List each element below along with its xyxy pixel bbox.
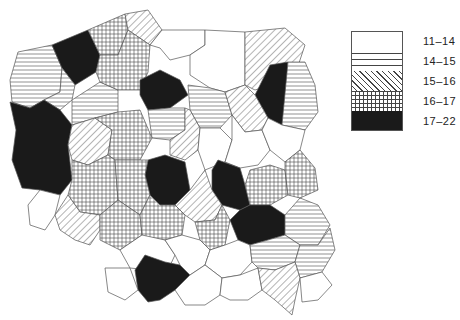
region-c1 (105, 268, 138, 300)
legend-swatch-crosshatch (351, 91, 403, 111)
region-c5 (10, 100, 72, 195)
legend-swatch-blank (351, 31, 403, 51)
region-c1 (300, 272, 332, 302)
region-c5 (140, 70, 188, 110)
legend-item-14-15: 14–15 (351, 51, 456, 71)
legend-swatch-solid (351, 111, 403, 131)
region-c3 (258, 262, 300, 315)
legend-swatch-diagonal (351, 71, 403, 91)
legend-item-11-14: 11–14 (351, 31, 456, 51)
legend: 11–14 14–15 15–16 16–17 17–22 (351, 31, 456, 131)
legend-label: 11–14 (423, 35, 455, 47)
voivodeship-regions (10, 10, 335, 315)
legend-item-17-22: 17–22 (351, 111, 456, 131)
legend-label: 17–22 (423, 115, 456, 127)
region-c4 (245, 165, 288, 205)
legend-swatch-horizontal (351, 51, 403, 71)
legend-item-16-17: 16–17 (351, 91, 456, 111)
legend-label: 14–15 (423, 55, 456, 67)
region-c2 (282, 62, 318, 130)
region-c1 (28, 190, 60, 230)
legend-label: 16–17 (423, 95, 456, 107)
legend-item-15-16: 15–16 (351, 71, 456, 91)
legend-label: 15–16 (423, 75, 456, 87)
